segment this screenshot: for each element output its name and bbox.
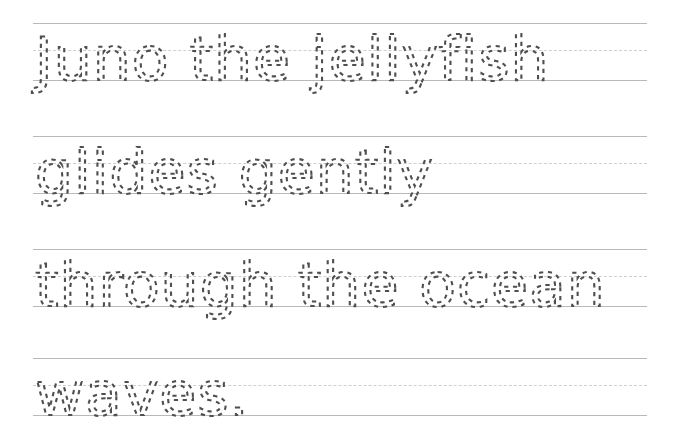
trace-text-line-2: glides gently — [35, 137, 434, 207]
rule-mid-dashed-line-1 — [33, 50, 647, 51]
rule-top-line-3 — [33, 249, 647, 250]
rule-top-line-4 — [33, 358, 647, 359]
rule-baseline-1 — [33, 80, 647, 81]
trace-glyphs-line-1: Juno the jellyfish — [33, 9, 673, 119]
rule-mid-dashed-line-2 — [33, 163, 647, 164]
rule-top-line-1 — [33, 23, 647, 24]
trace-text-line-1: Juno the jellyfish — [31, 24, 550, 94]
rule-baseline-2 — [33, 193, 647, 194]
trace-glyphs-line-3: through the ocean — [33, 235, 673, 345]
trace-glyphs-line-2: glides gently — [33, 122, 673, 232]
rule-mid-dashed-line-3 — [33, 276, 647, 277]
trace-text-line-4: waves. — [35, 359, 250, 429]
rule-top-line-2 — [33, 136, 647, 137]
rule-mid-dashed-line-4 — [33, 385, 647, 386]
rule-baseline-4 — [33, 415, 647, 416]
trace-text-line-3: through the ocean — [35, 250, 606, 320]
rule-baseline-3 — [33, 306, 647, 307]
worksheet-page: Juno the jellyfish glides gently through… — [0, 0, 675, 441]
